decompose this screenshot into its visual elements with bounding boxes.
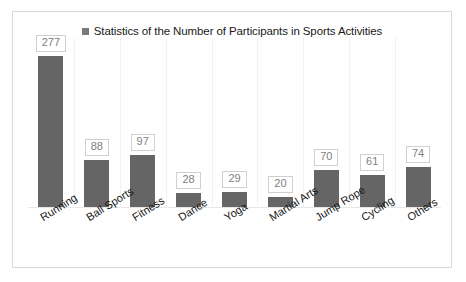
bar-group[interactable]: 28: [166, 38, 212, 208]
x-axis-tick: Running: [28, 209, 74, 267]
bar-group[interactable]: 20: [257, 38, 303, 208]
grid-line: [166, 38, 167, 208]
x-axis-labels: RunningBall SportsFitnessDanceYogaMartia…: [28, 209, 441, 267]
grid-line: [349, 38, 350, 208]
chart-legend: Statistics of the Number of Participants…: [13, 25, 451, 37]
bar-group[interactable]: 88: [74, 38, 120, 208]
x-axis-tick: Dance: [166, 209, 212, 267]
bar-group[interactable]: 74: [395, 38, 441, 208]
grid-line: [120, 38, 121, 208]
bar[interactable]: [38, 56, 63, 208]
x-axis-tick: Martial Arts: [257, 209, 303, 267]
chart-title-label: Statistics of the Number of Participants…: [94, 25, 383, 37]
bar-group[interactable]: 97: [120, 38, 166, 208]
bar-value-label: 277: [36, 35, 66, 52]
bar-value-label: 74: [406, 146, 430, 163]
x-axis-tick: Yoga: [212, 209, 258, 267]
grid-line: [257, 38, 258, 208]
chart-screenshot: Statistics of the Number of Participants…: [0, 0, 466, 282]
legend-square-icon: [82, 28, 89, 35]
grid-line: [212, 38, 213, 208]
x-axis-tick: Cycling: [349, 209, 395, 267]
bar-group[interactable]: 70: [303, 38, 349, 208]
x-axis-tick: Ball Sports: [74, 209, 120, 267]
x-axis-tick: Jump Rope: [303, 209, 349, 267]
bar-group[interactable]: 61: [349, 38, 395, 208]
bar-group[interactable]: 29: [212, 38, 258, 208]
plot-area: 2778897282920706174: [28, 38, 441, 208]
grid-line: [74, 38, 75, 208]
bar-group[interactable]: 277: [28, 38, 74, 208]
x-axis-tick: Fitness: [120, 209, 166, 267]
bar-value-label: 28: [176, 172, 200, 189]
bar-value-label: 70: [314, 149, 338, 166]
x-axis-tick: Others: [395, 209, 441, 267]
grid-line: [395, 38, 396, 208]
grid-line: [303, 38, 304, 208]
bar-value-label: 88: [85, 139, 109, 156]
bar-value-label: 97: [131, 134, 155, 151]
chart-frame: Statistics of the Number of Participants…: [12, 11, 452, 268]
bar-value-label: 20: [268, 176, 292, 193]
bar-value-label: 29: [222, 171, 246, 188]
bars-container: 2778897282920706174: [28, 38, 441, 208]
bar-value-label: 61: [360, 154, 384, 171]
